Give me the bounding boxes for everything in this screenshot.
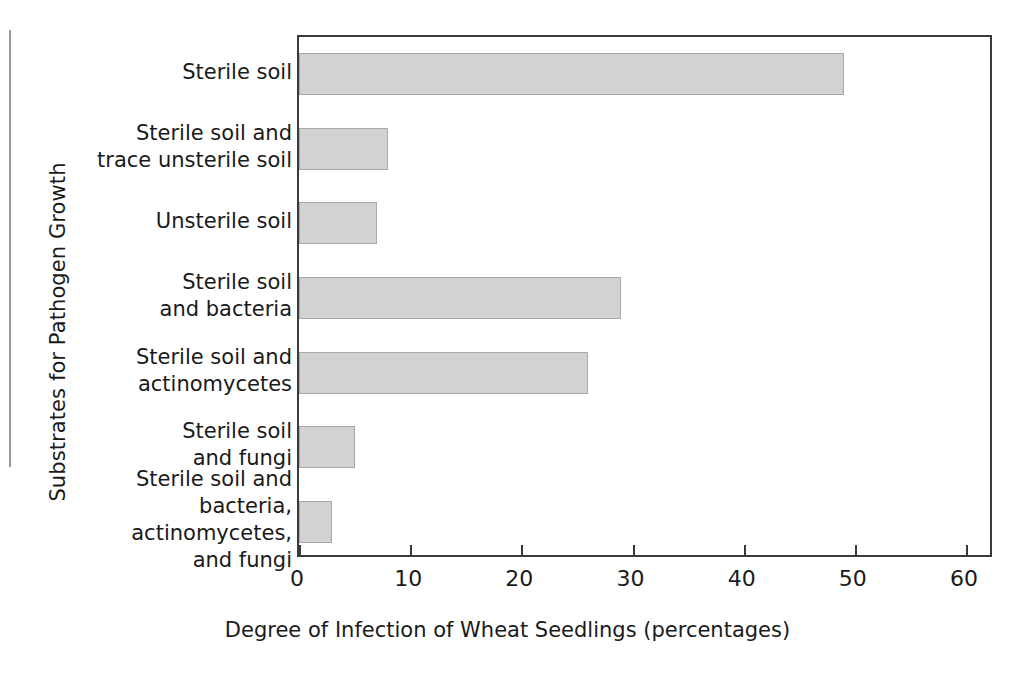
bar bbox=[299, 501, 332, 543]
x-axis-tick-label: 60 bbox=[924, 566, 1004, 591]
x-axis-tick-label: 40 bbox=[702, 566, 782, 591]
bar bbox=[299, 352, 588, 394]
x-axis-tick bbox=[966, 545, 968, 556]
category-label-line: Unsterile soil bbox=[20, 208, 292, 235]
category-label-line: Sterile soil and bbox=[20, 466, 292, 493]
x-axis-tick-label: 20 bbox=[479, 566, 559, 591]
x-axis-tick-label: 0 bbox=[257, 566, 337, 591]
bar bbox=[299, 128, 388, 170]
x-axis-tick-label: 50 bbox=[813, 566, 893, 591]
category-label: Sterile soil andbacteria,actinomycetes,a… bbox=[20, 466, 292, 574]
x-axis-tick bbox=[410, 545, 412, 556]
x-axis-tick-label: 30 bbox=[591, 566, 671, 591]
x-axis-tick bbox=[521, 545, 523, 556]
bar bbox=[299, 53, 844, 95]
category-label-line: Sterile soil and bbox=[20, 344, 292, 371]
x-axis-tick bbox=[744, 545, 746, 556]
bar bbox=[299, 277, 621, 319]
category-label-line: trace unsterile soil bbox=[20, 147, 292, 174]
category-label-line: Sterile soil bbox=[20, 269, 292, 296]
x-axis-tick bbox=[855, 545, 857, 556]
left-margin-rule bbox=[9, 30, 11, 467]
category-label: Sterile soiland bacteria bbox=[20, 269, 292, 323]
category-label-line: Sterile soil and bbox=[20, 120, 292, 147]
bar bbox=[299, 202, 377, 244]
category-label: Sterile soil bbox=[20, 59, 292, 86]
x-axis-title: Degree of Infection of Wheat Seedlings (… bbox=[0, 618, 1015, 642]
x-axis-tick bbox=[633, 545, 635, 556]
category-label: Sterile soiland fungi bbox=[20, 418, 292, 472]
category-label-line: and bacteria bbox=[20, 296, 292, 323]
category-label-line: Sterile soil bbox=[20, 59, 292, 86]
category-label-line: actinomycetes, bbox=[20, 520, 292, 547]
category-label: Sterile soil andactinomycetes bbox=[20, 344, 292, 398]
x-axis-tick-label: 10 bbox=[368, 566, 448, 591]
category-label-line: actinomycetes bbox=[20, 371, 292, 398]
category-label-line: and fungi bbox=[20, 547, 292, 574]
category-label-line: bacteria, bbox=[20, 493, 292, 520]
category-label: Sterile soil andtrace unsterile soil bbox=[20, 120, 292, 174]
category-label: Unsterile soil bbox=[20, 208, 292, 235]
bars-layer bbox=[299, 37, 990, 555]
category-label-column: Sterile soilSterile soil andtrace unster… bbox=[20, 35, 292, 557]
x-axis-tick bbox=[299, 545, 301, 556]
bar bbox=[299, 426, 355, 468]
plot-area bbox=[297, 35, 992, 557]
category-label-line: Sterile soil bbox=[20, 418, 292, 445]
bar-chart-figure: Substrates for Pathogen Growth Sterile s… bbox=[0, 0, 1015, 680]
